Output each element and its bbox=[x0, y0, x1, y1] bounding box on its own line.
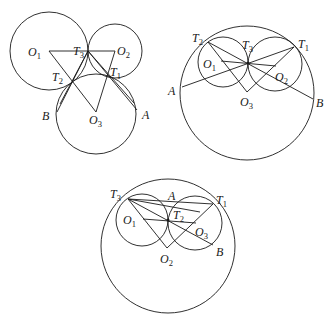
label-o2: O2 bbox=[275, 70, 288, 86]
label-t3: T3 bbox=[73, 44, 84, 60]
label-b: B bbox=[42, 109, 50, 123]
label-o3: O3 bbox=[240, 95, 253, 111]
label-o1: O1 bbox=[28, 45, 41, 61]
label-o2: O2 bbox=[117, 44, 130, 60]
label-o1: O1 bbox=[203, 57, 216, 73]
label-a: A bbox=[141, 108, 150, 122]
segment-o2-o3 bbox=[96, 51, 115, 112]
label-a: A bbox=[167, 84, 176, 98]
point-t3 bbox=[247, 62, 250, 65]
segment-o1-o3 bbox=[143, 219, 196, 223]
geometry-diagram: O1 T3 O2 T2 T1 B O3 A T2 T3 T1 O1 O2 A O… bbox=[0, 0, 330, 318]
label-t2: T2 bbox=[52, 70, 63, 86]
label-t1: T1 bbox=[298, 37, 309, 53]
figure-3: T3 A T1 O1 T2 O3 O2 B bbox=[101, 179, 235, 313]
label-t2: T2 bbox=[192, 31, 203, 47]
label-o3: O3 bbox=[195, 225, 208, 241]
label-o3: O3 bbox=[89, 113, 102, 129]
label-t3: T3 bbox=[110, 187, 121, 203]
label-b: B bbox=[216, 245, 224, 259]
point-t2 bbox=[167, 219, 170, 222]
label-b: B bbox=[316, 96, 324, 110]
figure-2: T2 T3 T1 O1 O2 A O3 B bbox=[167, 26, 324, 160]
label-o1: O1 bbox=[123, 213, 136, 229]
label-t3: T3 bbox=[242, 38, 253, 54]
figure-1: O1 T3 O2 T2 T1 B O3 A bbox=[10, 12, 150, 154]
label-t1: T1 bbox=[110, 65, 121, 81]
label-t2: T2 bbox=[173, 208, 184, 224]
label-o2: O2 bbox=[160, 252, 173, 268]
label-t1: T1 bbox=[216, 193, 227, 209]
label-a: A bbox=[167, 189, 176, 203]
